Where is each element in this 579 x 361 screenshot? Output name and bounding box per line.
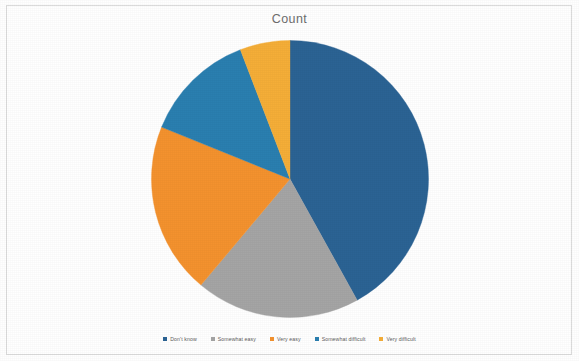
legend-item[interactable]: Very difficult (379, 336, 415, 342)
legend-swatch-icon (211, 337, 215, 341)
chart-legend: Don't knowSomewhat easyVery easySomewhat… (0, 336, 579, 342)
legend-swatch-icon (270, 337, 274, 341)
legend-swatch-icon (163, 337, 167, 341)
screenshot-root: Count Don't knowSomewhat easyVery easySo… (0, 0, 579, 361)
legend-item-label: Very easy (277, 336, 301, 342)
legend-item-label: Don't know (170, 336, 197, 342)
legend-item[interactable]: Somewhat difficult (315, 336, 366, 342)
pie-svg (151, 40, 429, 318)
legend-item-label: Somewhat easy (218, 336, 256, 342)
legend-item-label: Very difficult (386, 336, 415, 342)
pie-slice-group (152, 41, 429, 318)
pie-chart: Count Don't knowSomewhat easyVery easySo… (0, 0, 579, 361)
legend-item[interactable]: Very easy (270, 336, 301, 342)
legend-item[interactable]: Somewhat easy (211, 336, 256, 342)
legend-item-label: Somewhat difficult (322, 336, 366, 342)
legend-swatch-icon (315, 337, 319, 341)
pie-graphic (151, 40, 429, 318)
legend-item[interactable]: Don't know (163, 336, 197, 342)
chart-title: Count (0, 12, 579, 26)
legend-swatch-icon (379, 337, 383, 341)
